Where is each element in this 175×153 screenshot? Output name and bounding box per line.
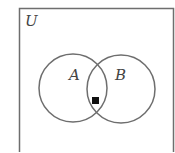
universe-label: U [25,12,39,30]
universe-box [20,9,174,153]
set-a-label: A [67,66,80,84]
venn-diagram: U A B [0,0,175,152]
set-b-label: B [114,66,126,84]
intersection-marker [92,97,99,104]
